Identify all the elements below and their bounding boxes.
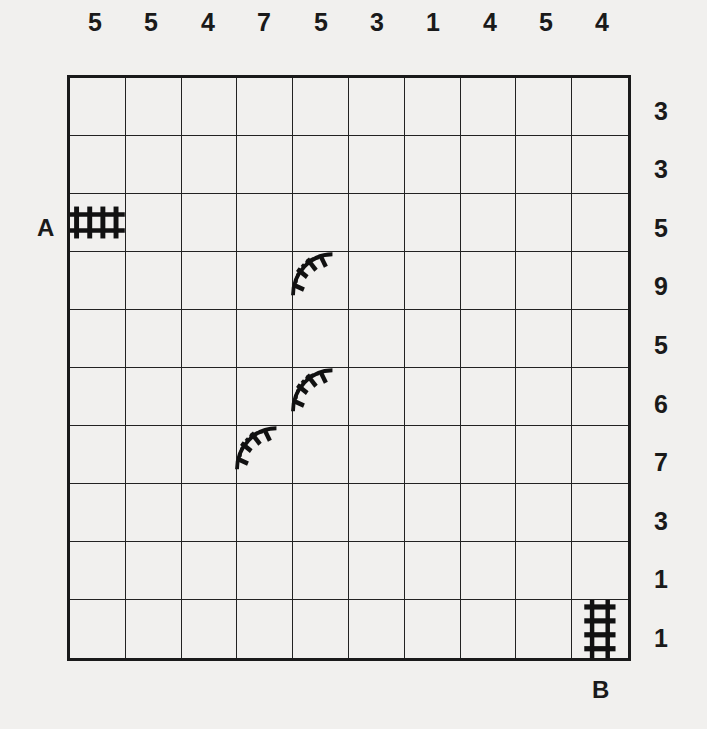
grid-cell[interactable] xyxy=(70,310,126,368)
grid-cell[interactable] xyxy=(405,194,461,252)
grid-cell[interactable] xyxy=(572,484,628,542)
grid-cell[interactable] xyxy=(293,252,349,310)
grid-cell[interactable] xyxy=(349,368,405,426)
grid-cell[interactable] xyxy=(182,252,238,310)
grid-cell[interactable] xyxy=(572,600,628,658)
grid-cell[interactable] xyxy=(516,136,572,194)
grid-cell[interactable] xyxy=(237,426,293,484)
grid-cell[interactable] xyxy=(516,252,572,310)
grid-cell[interactable] xyxy=(461,136,517,194)
grid-cell[interactable] xyxy=(349,542,405,600)
grid-cell[interactable] xyxy=(70,194,126,252)
grid-cell[interactable] xyxy=(461,194,517,252)
grid-cell[interactable] xyxy=(293,484,349,542)
grid-cell[interactable] xyxy=(516,194,572,252)
grid-cell[interactable] xyxy=(405,484,461,542)
grid-cell[interactable] xyxy=(182,194,238,252)
grid-cell[interactable] xyxy=(349,252,405,310)
grid-cell[interactable] xyxy=(70,136,126,194)
grid-cell[interactable] xyxy=(237,484,293,542)
grid-cell[interactable] xyxy=(461,484,517,542)
grid-cell[interactable] xyxy=(461,368,517,426)
grid-cell[interactable] xyxy=(293,136,349,194)
grid-cell[interactable] xyxy=(572,252,628,310)
grid-cell[interactable] xyxy=(516,426,572,484)
grid-cell[interactable] xyxy=(461,310,517,368)
grid-cell[interactable] xyxy=(126,194,182,252)
grid-cell[interactable] xyxy=(237,252,293,310)
grid-cell[interactable] xyxy=(516,310,572,368)
grid-cell[interactable] xyxy=(126,484,182,542)
grid-cell[interactable] xyxy=(572,136,628,194)
grid-cell[interactable] xyxy=(349,78,405,136)
grid-cell[interactable] xyxy=(516,542,572,600)
grid-cell[interactable] xyxy=(461,252,517,310)
grid-cell[interactable] xyxy=(405,136,461,194)
grid-cell[interactable] xyxy=(182,368,238,426)
grid-cell[interactable] xyxy=(126,426,182,484)
grid-cell[interactable] xyxy=(516,484,572,542)
grid-cell[interactable] xyxy=(572,194,628,252)
grid-cell[interactable] xyxy=(405,252,461,310)
grid-cell[interactable] xyxy=(516,368,572,426)
grid-cell[interactable] xyxy=(237,194,293,252)
grid-cell[interactable] xyxy=(126,310,182,368)
grid-cell[interactable] xyxy=(70,542,126,600)
grid-cell[interactable] xyxy=(126,368,182,426)
grid-cell[interactable] xyxy=(572,542,628,600)
grid-cell[interactable] xyxy=(70,78,126,136)
grid-cell[interactable] xyxy=(572,78,628,136)
grid-cell[interactable] xyxy=(405,368,461,426)
grid-cell[interactable] xyxy=(126,136,182,194)
grid-cell[interactable] xyxy=(405,310,461,368)
grid-cell[interactable] xyxy=(126,600,182,658)
grid-cell[interactable] xyxy=(516,78,572,136)
grid-cell[interactable] xyxy=(405,78,461,136)
grid-cell[interactable] xyxy=(237,310,293,368)
grid-cell[interactable] xyxy=(349,310,405,368)
grid-cell[interactable] xyxy=(349,600,405,658)
grid-cell[interactable] xyxy=(461,426,517,484)
grid-cell[interactable] xyxy=(126,252,182,310)
grid-cell[interactable] xyxy=(70,484,126,542)
grid-cell[interactable] xyxy=(237,136,293,194)
grid-cell[interactable] xyxy=(461,600,517,658)
grid-cell[interactable] xyxy=(182,542,238,600)
grid-cell[interactable] xyxy=(182,484,238,542)
grid-cell[interactable] xyxy=(70,368,126,426)
grid-cell[interactable] xyxy=(237,368,293,426)
grid-cell[interactable] xyxy=(461,78,517,136)
grid-cell[interactable] xyxy=(182,310,238,368)
grid-cell[interactable] xyxy=(405,600,461,658)
grid-cell[interactable] xyxy=(70,252,126,310)
grid-cell[interactable] xyxy=(182,600,238,658)
grid-cell[interactable] xyxy=(126,542,182,600)
grid-cell[interactable] xyxy=(349,194,405,252)
grid-cell[interactable] xyxy=(293,542,349,600)
grid-cell[interactable] xyxy=(70,426,126,484)
grid-cell[interactable] xyxy=(349,136,405,194)
grid-cell[interactable] xyxy=(182,136,238,194)
grid-cell[interactable] xyxy=(572,426,628,484)
grid-cell[interactable] xyxy=(293,368,349,426)
grid-cell[interactable] xyxy=(461,542,517,600)
grid-cell[interactable] xyxy=(182,78,238,136)
grid-cell[interactable] xyxy=(349,484,405,542)
grid-cell[interactable] xyxy=(70,600,126,658)
grid-cell[interactable] xyxy=(293,310,349,368)
grid-cell[interactable] xyxy=(237,78,293,136)
grid-cell[interactable] xyxy=(349,426,405,484)
grid-cell[interactable] xyxy=(182,426,238,484)
grid-cell[interactable] xyxy=(572,368,628,426)
grid-cell[interactable] xyxy=(237,600,293,658)
grid-cell[interactable] xyxy=(237,542,293,600)
grid-cell[interactable] xyxy=(405,426,461,484)
grid-cell[interactable] xyxy=(293,194,349,252)
grid-cell[interactable] xyxy=(293,426,349,484)
grid-cell[interactable] xyxy=(516,600,572,658)
grid-cell[interactable] xyxy=(405,542,461,600)
grid-cell[interactable] xyxy=(572,310,628,368)
grid-cell[interactable] xyxy=(293,78,349,136)
grid-cell[interactable] xyxy=(293,600,349,658)
grid-cell[interactable] xyxy=(126,78,182,136)
